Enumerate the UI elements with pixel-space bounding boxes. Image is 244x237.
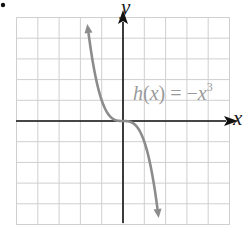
curve-arrow-icon bbox=[154, 209, 162, 218]
function-name: h bbox=[133, 82, 143, 104]
y-axis-label: y bbox=[121, 0, 130, 20]
function-label: h(x) = −x3 bbox=[133, 80, 213, 105]
x-axis-label: x bbox=[233, 106, 242, 131]
bullet-marker bbox=[1, 3, 5, 7]
minus-sign: − bbox=[187, 82, 198, 104]
function-var: x bbox=[198, 82, 207, 104]
equals-sign: = bbox=[170, 82, 181, 104]
function-arg: x bbox=[150, 82, 159, 104]
exponent: 3 bbox=[207, 80, 213, 94]
curve-arrow-icon bbox=[85, 24, 93, 33]
axes bbox=[16, 10, 238, 223]
graph bbox=[0, 0, 244, 237]
